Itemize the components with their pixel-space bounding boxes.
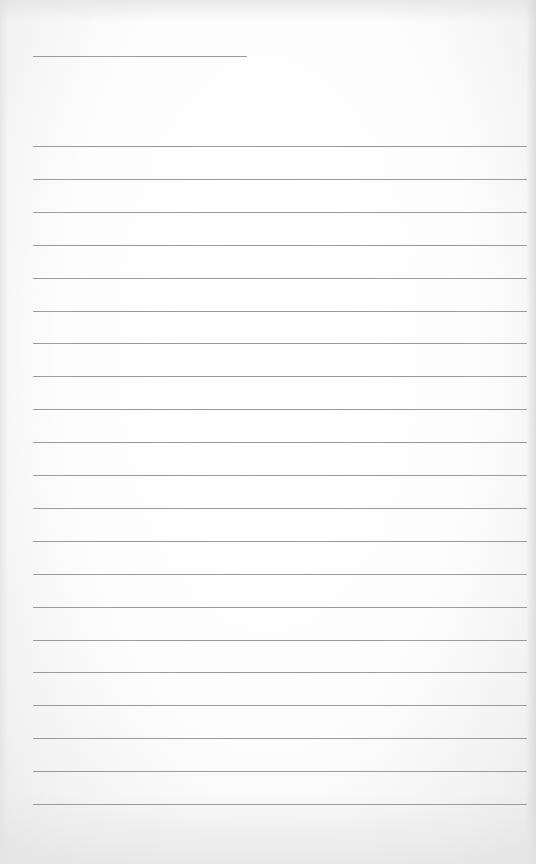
- ruled-lines: [0, 0, 536, 864]
- ruled-line: [33, 672, 527, 673]
- ruled-line: [33, 376, 527, 377]
- ruled-line: [33, 508, 527, 509]
- ruled-line: [33, 146, 527, 147]
- ruled-line: [33, 771, 527, 772]
- ruled-line: [33, 804, 527, 805]
- ruled-line: [33, 574, 527, 575]
- ruled-line: [33, 343, 527, 344]
- ruled-line: [33, 442, 527, 443]
- ruled-line: [33, 212, 527, 213]
- ruled-line: [33, 278, 527, 279]
- ruled-line: [33, 311, 527, 312]
- lined-paper-sheet: [0, 0, 536, 864]
- ruled-line: [33, 541, 527, 542]
- ruled-line: [33, 409, 527, 410]
- ruled-line: [33, 475, 527, 476]
- ruled-line: [33, 607, 527, 608]
- ruled-line: [33, 640, 527, 641]
- ruled-line: [33, 705, 527, 706]
- ruled-line: [33, 245, 527, 246]
- ruled-line: [33, 179, 527, 180]
- ruled-line: [33, 738, 527, 739]
